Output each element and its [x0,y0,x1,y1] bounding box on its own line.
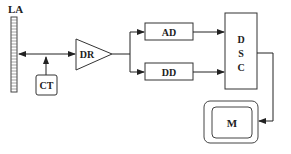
dsc-output-connection [257,53,273,121]
dsc-block: D S C [225,13,257,89]
m-label: M [227,117,238,129]
bus-connections [19,54,75,75]
dsc-input-connections [193,32,224,72]
ct-label: CT [40,80,54,91]
ad-block: AD [145,23,193,40]
dr-block: DR [76,39,112,70]
dr-label: DR [80,49,95,60]
dsc-label-d: D [237,34,244,45]
dsc-label-s: S [238,48,244,59]
dd-block: DD [145,63,193,80]
ct-block: CT [36,75,57,95]
block-diagram: LA CT DR [0,0,291,154]
la-label: LA [8,3,23,15]
dd-label: DD [162,67,176,78]
ad-label: AD [162,27,176,38]
dsc-label-c: C [237,62,244,73]
linear-array: LA [8,3,23,92]
branch-connections [112,32,144,72]
monitor-block: M [204,101,258,143]
